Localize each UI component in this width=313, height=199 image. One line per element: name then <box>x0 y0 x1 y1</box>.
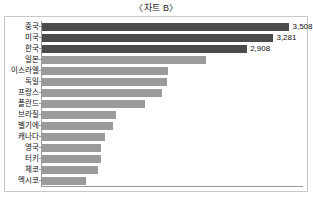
bar-row: 벨기에 <box>5 120 307 131</box>
bar <box>42 45 247 53</box>
x-axis-baseline <box>41 186 303 187</box>
axis-tick <box>39 147 41 148</box>
bar <box>42 166 98 174</box>
bar <box>42 56 206 64</box>
axis-tick <box>39 37 41 38</box>
bar-row: 일본 <box>5 54 307 65</box>
category-label: 이스라엘 <box>5 65 39 76</box>
bar-value-label: 2,908 <box>250 43 270 54</box>
bar-row: 프랑스 <box>5 87 307 98</box>
bar <box>42 177 86 185</box>
category-label: 터키 <box>5 153 39 164</box>
axis-tick <box>39 48 41 49</box>
bar-row: 미국3,281 <box>5 32 307 43</box>
bar-value-label: 3,508 <box>292 21 312 32</box>
category-label: 미국 <box>5 32 39 43</box>
axis-tick <box>39 59 41 60</box>
bar-row: 터키 <box>5 153 307 164</box>
axis-tick <box>39 103 41 104</box>
category-label: 브라질 <box>5 109 39 120</box>
category-label: 영국 <box>5 142 39 153</box>
bar-row: 영국 <box>5 142 307 153</box>
bar <box>42 100 145 108</box>
bar-row: 독일 <box>5 76 307 87</box>
category-label: 체코 <box>5 164 39 175</box>
bar <box>42 133 105 141</box>
bar-value-label: 3,281 <box>276 32 296 43</box>
category-label: 벨기에 <box>5 120 39 131</box>
axis-tick <box>39 136 41 137</box>
bar-row: 중국3,508 <box>5 21 307 32</box>
bar <box>42 155 101 163</box>
bar <box>42 67 168 75</box>
bar <box>42 122 113 130</box>
category-label: 독일 <box>5 76 39 87</box>
axis-tick <box>39 114 41 115</box>
axis-tick <box>39 180 41 181</box>
bar <box>42 89 162 97</box>
bar <box>42 34 273 42</box>
category-label: 중국 <box>5 21 39 32</box>
bar-row: 체코 <box>5 164 307 175</box>
axis-tick <box>39 81 41 82</box>
axis-tick <box>39 92 41 93</box>
page-title: 〈차트 B〉 <box>0 1 313 14</box>
bar-row: 캐나다 <box>5 131 307 142</box>
bar-row: 한국2,908 <box>5 43 307 54</box>
category-label: 일본 <box>5 54 39 65</box>
bar <box>42 23 289 31</box>
bar-row: 브라질 <box>5 109 307 120</box>
category-label: 한국 <box>5 43 39 54</box>
category-label: 폴란드 <box>5 98 39 109</box>
axis-tick <box>39 125 41 126</box>
bar <box>42 78 167 86</box>
axis-tick <box>39 26 41 27</box>
category-label: 프랑스 <box>5 87 39 98</box>
bar <box>42 111 116 119</box>
axis-tick <box>39 158 41 159</box>
axis-tick <box>39 169 41 170</box>
bar-row: 폴란드 <box>5 98 307 109</box>
chart-plot-area: 중국3,508미국3,281한국2,908일본이스라엘독일프랑스폴란드브라질벨기… <box>5 21 307 187</box>
bar <box>42 144 101 152</box>
bar-row: 이스라엘 <box>5 65 307 76</box>
category-label: 캐나다 <box>5 131 39 142</box>
axis-tick <box>39 70 41 71</box>
category-label: 멕시코 <box>5 175 39 186</box>
bar-row: 멕시코 <box>5 175 307 186</box>
